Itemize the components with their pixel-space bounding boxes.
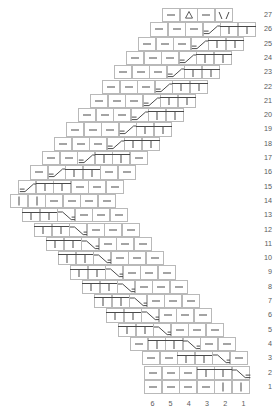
knit-bar-overline-icon: [179, 95, 195, 107]
chart-cell: [63, 194, 81, 208]
chart-cell: [134, 237, 152, 251]
chart-cell: [99, 237, 117, 251]
chart-row: [102, 80, 208, 94]
chart-cell: [110, 208, 128, 222]
knit-bar-overline-icon: [143, 138, 159, 150]
row-number-label: 18: [256, 137, 272, 151]
chart-cell: [80, 194, 98, 208]
chart-cell: [197, 380, 215, 394]
chart-cell: [144, 51, 162, 65]
purl-dash-icon: [231, 352, 247, 364]
chart-cell: [60, 151, 78, 165]
chart-cell: [112, 151, 130, 165]
chart-row: [22, 208, 128, 222]
ramp-up-icon: [144, 95, 160, 107]
chart-cell: [162, 380, 180, 394]
ramp-up-icon: [180, 52, 196, 64]
chart-cell: [150, 22, 168, 36]
purl-dash-icon: [81, 195, 97, 207]
chart-cell: [195, 351, 213, 365]
purl-dash-icon: [121, 81, 137, 93]
chart-cell: [215, 8, 233, 22]
ramp-down-icon: [130, 295, 146, 307]
row-number-label: 27: [256, 8, 272, 22]
chart-cell: [65, 165, 83, 179]
chart-cell: [180, 8, 198, 22]
chart-row: [10, 194, 116, 208]
knit-bar-overline-icon: [89, 266, 105, 278]
chart-cell: [148, 337, 166, 351]
chart-cell: [132, 65, 150, 79]
chart-cell: [226, 37, 244, 51]
knit-bar-overline-icon: [101, 281, 117, 293]
purl-dash-icon: [153, 281, 169, 293]
knit-bar-overline-icon: [161, 95, 177, 107]
knit-bar-overline-icon: [23, 209, 39, 221]
purl-dash-icon: [151, 23, 167, 35]
purl-dash-icon: [172, 324, 188, 336]
purl-dash-icon: [105, 224, 121, 236]
row-number-label: 3: [256, 351, 272, 365]
ramp-down-icon: [106, 266, 122, 278]
chart-cell: [53, 180, 71, 194]
chart-cell: [30, 165, 48, 179]
knit-bar-overline-icon: [137, 123, 153, 135]
row-number-label: 22: [256, 80, 272, 94]
row-number-label: 15: [256, 180, 272, 194]
row-number-label: 16: [256, 165, 272, 179]
purl-dash-icon: [180, 367, 196, 379]
chart-cell: [183, 337, 201, 351]
purl-dash-icon: [219, 338, 235, 350]
chart-cell: [171, 323, 189, 337]
chart-cell: [129, 294, 147, 308]
chart-cell: [136, 122, 154, 136]
chart-cell: [238, 22, 256, 36]
chart-cell: [159, 308, 177, 322]
chart-cell: [143, 94, 161, 108]
chart-cell: [131, 108, 149, 122]
chart-cell: [124, 137, 142, 151]
chart-row: [114, 65, 220, 79]
chart-cell: [64, 237, 82, 251]
knit-bar-overline-icon: [178, 352, 194, 364]
knit-bar-overline-icon: [66, 166, 82, 178]
chart-cell: [125, 94, 143, 108]
chart-cell: [102, 80, 120, 94]
yarn-over-triangle-icon: [181, 9, 197, 21]
purl-dash-icon: [126, 95, 142, 107]
chart-cell: [161, 51, 179, 65]
knit-bar-overline-icon: [215, 52, 231, 64]
chart-cell: [173, 37, 191, 51]
chart-cell: [136, 323, 154, 337]
column-number-label: 4: [180, 399, 198, 408]
purl-dash-icon: [195, 309, 211, 321]
knit-bar-overline-icon: [149, 338, 165, 350]
row-number-label: 6: [256, 308, 272, 322]
ramp-up-icon: [156, 81, 172, 93]
knit-bar-overline-icon: [185, 66, 201, 78]
knit-bar-overline-icon: [96, 152, 112, 164]
chart-cell: [214, 380, 232, 394]
purl-dash-icon: [147, 252, 163, 264]
chart-cell: [96, 108, 114, 122]
knit-bar-overline-icon: [196, 352, 212, 364]
purl-dash-icon: [101, 166, 117, 178]
chart-cell: [71, 180, 89, 194]
chart-cell: [128, 251, 146, 265]
chart-cell: [100, 280, 118, 294]
purl-dash-icon: [76, 209, 92, 221]
knit-bar-overline-icon: [173, 81, 189, 93]
ramp-down-icon: [142, 309, 158, 321]
purl-dash-icon: [189, 324, 205, 336]
chart-cell: [75, 208, 93, 222]
purl-dash-icon: [131, 152, 147, 164]
knitting-chart: 2726252423222120191817161514131211109876…: [0, 0, 274, 413]
purl-dash-icon: [163, 381, 179, 393]
purl-dash-icon: [43, 152, 59, 164]
chart-cell: [191, 37, 209, 51]
purl-dash-icon: [150, 66, 166, 78]
row-number-label: 24: [256, 51, 272, 65]
chart-cell: [123, 265, 141, 279]
chart-cell: [106, 308, 124, 322]
chart-row: [78, 108, 184, 122]
